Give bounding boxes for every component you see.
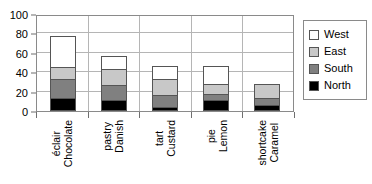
bar-slot	[242, 16, 293, 111]
bar-segment-north[interactable]	[152, 107, 178, 111]
chart-legend: WestEastSouthNorth	[303, 20, 367, 100]
x-category-label-line: pastry	[101, 120, 113, 153]
x-category-label-line: Lemon	[217, 120, 229, 152]
bar-segment-south[interactable]	[50, 79, 76, 99]
legend-item-north[interactable]: North	[309, 77, 362, 94]
y-tick-label-100: 100	[10, 10, 28, 21]
y-axis: 100806040200	[0, 0, 36, 128]
bar-slot	[191, 16, 242, 111]
bar-stack[interactable]	[152, 66, 178, 111]
plot-area	[36, 15, 294, 112]
legend-item-south[interactable]: South	[309, 60, 362, 77]
y-tick-label-20: 20	[16, 87, 28, 98]
x-category-label-line: Chocolate	[62, 120, 74, 167]
bar-stack[interactable]	[101, 56, 127, 111]
bar-segment-south[interactable]	[152, 95, 178, 109]
x-category-label: Custardtart	[139, 120, 191, 184]
bar-segment-west[interactable]	[50, 36, 76, 68]
bar-segment-west[interactable]	[203, 66, 229, 85]
legend-item-west[interactable]: West	[309, 26, 362, 43]
x-tick-mark	[139, 112, 140, 118]
bar-slot	[139, 16, 190, 111]
bar-slot	[37, 16, 88, 111]
x-category-label: Caramelshortcake	[242, 120, 294, 184]
x-tick-mark	[242, 112, 243, 118]
x-tick-mark	[36, 112, 37, 118]
y-tick-label-60: 60	[16, 48, 28, 59]
bar-segment-north[interactable]	[254, 105, 280, 111]
x-category-label-line: tart	[153, 120, 165, 157]
x-category-label-line: shortcake	[256, 120, 268, 166]
y-tick-label-40: 40	[16, 68, 28, 79]
x-category-label: Lemonpie	[191, 120, 243, 184]
bar-segment-north[interactable]	[50, 98, 76, 111]
x-category-label-line: pie	[205, 120, 217, 152]
legend-swatch-icon	[309, 64, 319, 74]
legend-swatch-icon	[309, 47, 319, 57]
x-category-label-line: éclair	[50, 120, 62, 167]
y-tick-label-0: 0	[22, 107, 28, 118]
x-category-label-line: Danish	[113, 120, 125, 153]
x-category-label-line: Caramel	[268, 120, 280, 166]
legend-item-east[interactable]: East	[309, 43, 362, 60]
bar-segment-west[interactable]	[152, 66, 178, 81]
legend-swatch-icon	[309, 81, 319, 91]
x-axis: ChocolateéclairDanishpastryCustardtartLe…	[36, 112, 294, 184]
y-tick-label-80: 80	[16, 29, 28, 40]
x-category-label: Danishpastry	[87, 120, 139, 184]
x-tick-mark	[294, 112, 295, 118]
bar-segment-north[interactable]	[203, 100, 229, 111]
x-category-label-line: Custard	[165, 120, 177, 157]
x-tick-mark	[191, 112, 192, 118]
bar-segment-east[interactable]	[254, 84, 280, 100]
legend-item-label: West	[324, 29, 349, 40]
stacked-bar-chart: 100806040200 ChocolateéclairDanishpastry…	[0, 0, 372, 184]
legend-item-label: East	[324, 46, 346, 57]
x-tick-mark	[88, 112, 89, 118]
bar-stack[interactable]	[203, 66, 229, 111]
bar-segment-south[interactable]	[101, 85, 127, 101]
bar-segment-east[interactable]	[152, 79, 178, 95]
bar-slot	[88, 16, 139, 111]
legend-item-label: North	[324, 80, 351, 91]
bar-segment-east[interactable]	[101, 69, 127, 85]
chart-title-cropped	[118, 0, 268, 4]
bar-segment-north[interactable]	[101, 100, 127, 111]
legend-item-label: South	[324, 63, 353, 74]
legend-swatch-icon	[309, 30, 319, 40]
bar-stack[interactable]	[50, 36, 76, 111]
bar-stack[interactable]	[254, 84, 280, 111]
x-category-label: Chocolateéclair	[36, 120, 88, 184]
bar-segment-west[interactable]	[101, 56, 127, 71]
